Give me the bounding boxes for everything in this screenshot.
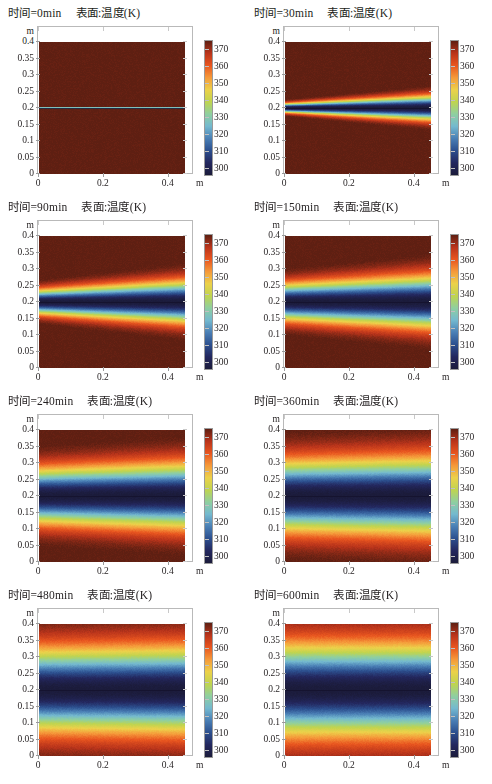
panel-subtitle: 表面:温度(K) (81, 201, 146, 214)
y-axis-unit: m (246, 414, 280, 424)
y-tick-mark (282, 58, 286, 59)
x-tick-mark-top (168, 415, 169, 419)
colorbar-tick-label: 310 (460, 146, 474, 156)
y-tick-mark-right (183, 235, 187, 236)
y-tick-label: 0.3 (246, 263, 280, 273)
colorbar-tick-label: 300 (460, 551, 474, 561)
colorbar-tick-label: 300 (214, 357, 228, 367)
colorbar-tick-mark (451, 345, 455, 346)
panel-0min: 时间=0min表面:温度(K)m0.40.350.30.250.20.150.1… (0, 0, 246, 194)
y-tick-mark (36, 318, 40, 319)
y-tick-mark-right (183, 446, 187, 447)
colorbar-tick-label: 300 (460, 163, 474, 173)
colorbar-tick-label: 350 (460, 272, 474, 282)
y-tick-label: 0.2 (246, 102, 280, 112)
colorbar-tick-label: 330 (460, 306, 474, 316)
y-tick-mark-right (429, 124, 433, 125)
x-axis-unit: m (442, 566, 449, 576)
x-tick-mark-top (103, 609, 104, 613)
colorbar-tick-label: 320 (214, 711, 228, 721)
x-tick-mark (284, 755, 285, 759)
y-tick-mark (282, 446, 286, 447)
colorbar-tick-mark (205, 750, 209, 751)
y-tick-mark (36, 640, 40, 641)
colorbar-tick-mark (451, 168, 455, 169)
y-tick-mark-right (429, 268, 433, 269)
colorbar-tick-label: 330 (460, 112, 474, 122)
colorbar-tick-mark (205, 556, 209, 557)
y-tick-mark (282, 512, 286, 513)
y-tick-mark (282, 107, 286, 108)
colorbar-tick-mark (451, 66, 455, 67)
y-tick-label: 0.35 (0, 53, 34, 63)
y-tick-mark (36, 285, 40, 286)
y-tick-mark (36, 545, 40, 546)
x-tick-label: 0.4 (399, 566, 429, 576)
x-axis-unit: m (196, 566, 203, 576)
y-tick-mark-right (183, 301, 187, 302)
y-tick-mark-right (429, 512, 433, 513)
y-tick-label: 0.1 (246, 717, 280, 727)
colorbar-tick-mark (451, 362, 455, 363)
y-tick-mark (36, 623, 40, 624)
y-tick-mark-right (183, 318, 187, 319)
y-tick-mark (282, 252, 286, 253)
y-tick-mark-right (183, 673, 187, 674)
y-tick-mark-right (183, 268, 187, 269)
y-tick-mark-right (183, 722, 187, 723)
y-tick-mark (36, 446, 40, 447)
y-tick-mark-right (429, 446, 433, 447)
axes-frame (283, 608, 439, 756)
x-tick-mark (103, 755, 104, 759)
colorbar-tick-mark (205, 522, 209, 523)
axes-frame (283, 220, 439, 368)
y-tick-mark (36, 301, 40, 302)
colorbar-tick-label: 340 (460, 289, 474, 299)
axes-frame (37, 414, 193, 562)
y-tick-mark (282, 318, 286, 319)
colorbar-tick-label: 370 (460, 626, 474, 636)
colorbar-tick-label: 370 (214, 238, 228, 248)
x-tick-mark (103, 561, 104, 565)
x-tick-mark (414, 561, 415, 565)
colorbar-tick-label: 360 (214, 61, 228, 71)
x-tick-mark (349, 561, 350, 565)
colorbar-tick-label: 350 (460, 466, 474, 476)
y-tick-mark-right (429, 41, 433, 42)
colorbar-tick-label: 320 (214, 129, 228, 139)
colorbar-gradient (451, 41, 458, 175)
x-tick-mark (349, 367, 350, 371)
y-tick-label: 0 (246, 362, 280, 372)
colorbar-tick-label: 350 (460, 660, 474, 670)
y-tick-mark-right (183, 58, 187, 59)
y-tick-mark (36, 528, 40, 529)
x-tick-mark-top (38, 609, 39, 613)
colorbar-tick-mark (451, 682, 455, 683)
colorbar-tick-mark (205, 243, 209, 244)
y-tick-mark-right (429, 640, 433, 641)
figure-panel-grid: 时间=0min表面:温度(K)m0.40.350.30.250.20.150.1… (0, 0, 492, 784)
y-tick-mark-right (183, 561, 187, 562)
panel-title: 时间=0min表面:温度(K) (0, 7, 246, 20)
x-tick-mark (38, 367, 39, 371)
y-tick-label: 0.05 (246, 346, 280, 356)
x-tick-mark (103, 367, 104, 371)
colorbar-tick-label: 350 (214, 272, 228, 282)
y-tick-mark (282, 124, 286, 125)
colorbar-tick-label: 300 (214, 745, 228, 755)
colorbar-tick-mark (205, 454, 209, 455)
y-tick-mark-right (429, 140, 433, 141)
y-tick-label: 0 (0, 362, 34, 372)
y-tick-label: 0.4 (246, 36, 280, 46)
colorbar-tick-label: 310 (460, 534, 474, 544)
y-tick-label: 0.05 (246, 152, 280, 162)
y-tick-mark-right (429, 528, 433, 529)
colorbar (450, 622, 459, 758)
panel-150min: 时间=150min表面:温度(K)m0.40.350.30.250.20.150… (246, 194, 492, 388)
panel-subtitle: 表面:温度(K) (76, 7, 141, 20)
x-tick-mark-top (284, 609, 285, 613)
y-tick-label: 0.2 (0, 684, 34, 694)
colorbar-tick-label: 330 (214, 694, 228, 704)
heatmap-canvas (285, 430, 431, 562)
panel-time-label: 时间=360min (254, 395, 319, 408)
